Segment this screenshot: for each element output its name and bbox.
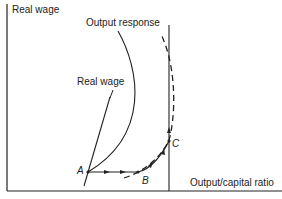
- real-wage-label: Real wage: [77, 77, 124, 87]
- arrow-icon: [120, 170, 126, 174]
- output-response-label: Output response: [86, 18, 160, 28]
- point-a-marker: [86, 170, 89, 173]
- point-c-label: C: [172, 139, 179, 149]
- arrow-icon: [104, 170, 110, 174]
- dashed-adjustment-path: [124, 34, 174, 178]
- point-b-label: B: [142, 176, 149, 186]
- point-b-marker: [136, 170, 139, 173]
- real-wage-leader: [110, 90, 113, 98]
- point-a-label: A: [77, 166, 84, 176]
- diagram-canvas: [0, 0, 282, 199]
- adjustment-path-arrows: [88, 141, 169, 172]
- arrow-icon: [167, 127, 171, 133]
- x-axis-label: Output/capital ratio: [190, 178, 274, 188]
- output-response-curve: [88, 31, 135, 172]
- point-c-marker: [167, 139, 170, 142]
- y-axis-label: Real wage: [12, 5, 59, 15]
